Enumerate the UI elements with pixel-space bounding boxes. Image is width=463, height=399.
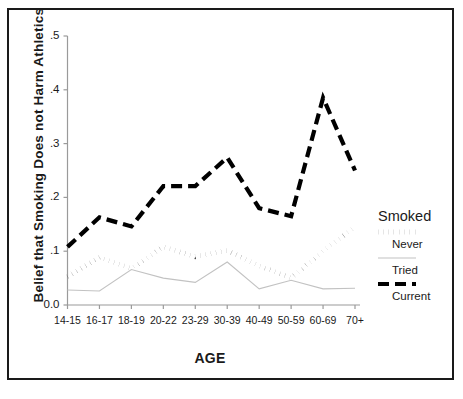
legend-title: Smoked [378, 208, 431, 224]
legend-label-never: Never [392, 238, 423, 250]
series-line-tried [68, 262, 356, 291]
legend-label-tried: Tried [392, 264, 418, 276]
legend-label-current: Current [392, 290, 430, 302]
series-line-never [68, 227, 356, 278]
plot-canvas [0, 0, 463, 399]
y-tick-label: .5 [34, 29, 60, 41]
y-tick-label: .2 [34, 190, 60, 202]
chart-figure: Belief that Smoking Does not Harm Athlet… [0, 0, 463, 399]
y-tick-label: .4 [34, 83, 60, 95]
y-tick-label: .1 [34, 244, 60, 256]
data-series-group [68, 98, 356, 291]
x-tick-label: 70+ [332, 314, 378, 326]
axes [64, 36, 361, 309]
series-line-current [68, 98, 356, 247]
y-tick-label: 0.0 [34, 298, 60, 310]
y-tick-label: .3 [34, 137, 60, 149]
